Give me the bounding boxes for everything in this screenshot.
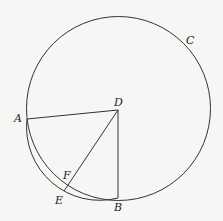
label-c: C xyxy=(186,34,195,47)
label-b: B xyxy=(113,201,122,214)
label-f: F xyxy=(62,169,71,182)
label-d: D xyxy=(113,96,123,109)
diagram-svg: A B C D E F xyxy=(0,0,223,221)
segment-da xyxy=(27,110,118,119)
segment-de xyxy=(64,110,118,191)
label-a: A xyxy=(13,112,22,125)
geometry-diagram: A B C D E F xyxy=(0,0,223,221)
label-e: E xyxy=(54,194,63,207)
